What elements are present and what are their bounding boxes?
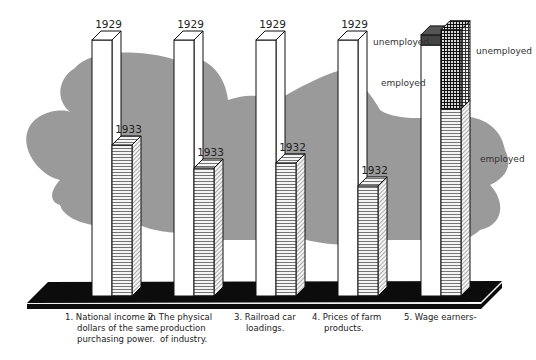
year-label: 1933 — [197, 146, 224, 158]
bar-4-2-front — [358, 186, 378, 296]
bar-2-1-front — [174, 40, 194, 296]
bar-5-2-unemployed-segment-front — [441, 30, 461, 109]
year-label: 1932 — [361, 164, 388, 176]
category-label: loadings. — [246, 323, 284, 333]
bar-3-1-front — [256, 40, 276, 296]
bar-4-2-side — [378, 177, 387, 296]
bar-5-2-unemployed-segment — [441, 21, 470, 109]
bar-3-2-front — [276, 163, 296, 296]
base-edge — [27, 304, 481, 309]
year-label: 1929 — [177, 18, 204, 30]
bar-4-1-front — [338, 40, 358, 296]
bar-1-1-front — [92, 40, 112, 296]
bar-3-2 — [276, 154, 305, 296]
category-label: 2. The physical — [148, 312, 212, 322]
year-label: 1929 — [341, 18, 368, 30]
bar-2-2 — [194, 159, 223, 296]
bar-1-2 — [112, 136, 141, 296]
bar-3-2-side — [296, 154, 305, 296]
bar-1-2-side — [132, 136, 141, 296]
year-label: 1933 — [115, 123, 142, 135]
category-label: 3. Railroad car — [234, 312, 296, 322]
bar-5-2-employed-segment-side — [461, 100, 470, 296]
bar-1-2-front — [112, 145, 132, 296]
bar-5-2-employed-segment-front — [441, 109, 461, 296]
segment-label-employed: employed — [480, 154, 525, 164]
segment-label-employed: employed — [381, 78, 426, 88]
category-label: 5. Wage earners- — [404, 312, 477, 322]
category-label: purchasing power. — [77, 334, 155, 344]
category-label: products. — [324, 323, 364, 333]
year-label: 1929 — [95, 18, 122, 30]
category-label: 4. Prices of farm — [312, 312, 381, 322]
category-label: of industry. — [160, 334, 207, 344]
year-label: 1929 — [259, 18, 286, 30]
bar-5-2-employed-segment — [441, 100, 470, 296]
segment-label-unemployed: unemployed — [373, 37, 429, 47]
bar-4-2 — [358, 177, 387, 296]
pictorial-bar-chart: 192919331. National income indollars of … — [0, 0, 536, 360]
category-label: dollars of the same — [77, 323, 159, 333]
category-label: 1. National income in — [65, 312, 156, 322]
bar-2-2-front — [194, 168, 214, 296]
bar-2-2-side — [214, 159, 223, 296]
segment-label-unemployed: unemployed — [476, 46, 532, 56]
bar-5-2-unemployed-segment-side — [461, 21, 470, 109]
year-label: 1932 — [279, 141, 306, 153]
category-label: production — [160, 323, 206, 333]
